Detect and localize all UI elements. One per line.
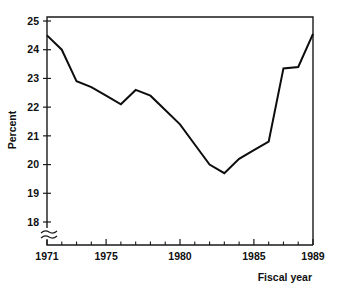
y-axis-title: Percent — [6, 110, 18, 149]
x-tick-label-1980: 1980 — [168, 250, 192, 262]
plot-frame — [47, 17, 313, 245]
line-chart: 1819202122232425 19711975198019851989 Pe… — [0, 0, 340, 295]
x-axis-ticks — [47, 239, 313, 245]
y-tick-label-24: 24 — [27, 43, 39, 55]
y-tick-label-25: 25 — [27, 15, 39, 27]
chart-figure: 1819202122232425 19711975198019851989 Pe… — [0, 0, 340, 295]
y-tick-label-21: 21 — [27, 130, 39, 142]
y-tick-label-23: 23 — [27, 72, 39, 84]
x-axis-title: Fiscal year — [258, 271, 312, 283]
y-axis-break-icon — [41, 231, 57, 238]
y-tick-label-22: 22 — [27, 101, 39, 113]
x-axis-tick-labels: 19711975198019851989 — [35, 250, 325, 262]
y-axis-tick-labels: 1819202122232425 — [27, 15, 39, 228]
x-tick-label-1975: 1975 — [94, 250, 118, 262]
x-tick-label-1971: 1971 — [35, 250, 59, 262]
y-tick-label-18: 18 — [27, 216, 39, 228]
x-tick-label-1985: 1985 — [242, 250, 266, 262]
y-tick-label-19: 19 — [27, 187, 39, 199]
frame-path — [47, 17, 313, 245]
x-tick-label-1989: 1989 — [301, 250, 325, 262]
y-tick-label-20: 20 — [27, 158, 39, 170]
data-series-line — [47, 34, 313, 173]
